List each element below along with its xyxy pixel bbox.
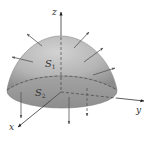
- y-axis-label: y: [135, 105, 142, 115]
- z-axis-label: z: [51, 7, 57, 17]
- surface-integral-diagram: z y x S1 S2: [0, 0, 152, 141]
- y-axis: [116, 98, 144, 101]
- normal-arrow-icon: [27, 34, 42, 46]
- x-axis-label: x: [9, 122, 14, 132]
